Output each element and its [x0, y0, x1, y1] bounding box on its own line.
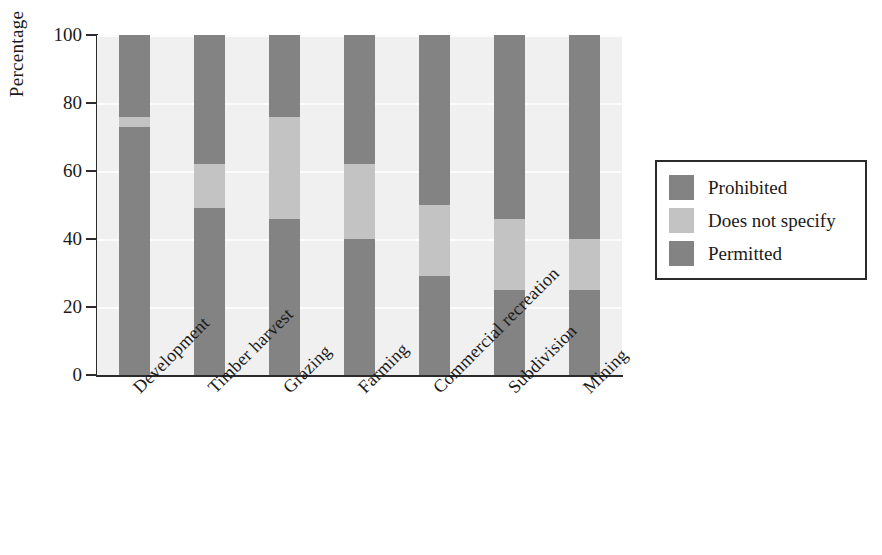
- legend-item[interactable]: Prohibited: [669, 172, 787, 202]
- bar-segment-prohibited[interactable]: [494, 35, 525, 219]
- stacked-bar[interactable]: [419, 35, 450, 375]
- bar-segment-prohibited[interactable]: [269, 35, 300, 117]
- y-axis-tick-label: 80: [2, 93, 82, 112]
- bar-segment-does-not-specify[interactable]: [119, 117, 150, 127]
- y-axis-tick-label-wrap: 40: [0, 229, 82, 248]
- legend-item[interactable]: Permitted: [669, 238, 782, 268]
- y-axis-tick-label: 40: [2, 229, 82, 248]
- bar-segment-does-not-specify[interactable]: [419, 205, 450, 276]
- bar-segment-does-not-specify[interactable]: [194, 164, 225, 208]
- y-axis-tick: [86, 306, 97, 308]
- y-axis-tick-label: 20: [2, 297, 82, 316]
- stacked-bar[interactable]: [344, 35, 375, 375]
- chart-legend: ProhibitedDoes not specifyPermitted: [655, 160, 867, 280]
- bar-segment-permitted[interactable]: [269, 219, 300, 375]
- bar-segment-permitted[interactable]: [344, 239, 375, 375]
- y-axis-tick: [86, 238, 97, 240]
- y-axis-tick-label-wrap: 80: [0, 93, 82, 112]
- legend-swatch-icon: [669, 241, 694, 266]
- legend-label: Prohibited: [708, 178, 787, 197]
- y-axis-tick-label-wrap: 60: [0, 161, 82, 180]
- bar-segment-does-not-specify[interactable]: [569, 239, 600, 290]
- y-axis-tick: [86, 34, 97, 36]
- chart-figure: Percentage 020406080100 DevelopmentTimbe…: [0, 0, 882, 555]
- bar-segment-permitted[interactable]: [419, 276, 450, 375]
- bar-segment-does-not-specify[interactable]: [494, 219, 525, 290]
- bar-segment-permitted[interactable]: [194, 208, 225, 375]
- y-axis-tick: [86, 170, 97, 172]
- y-axis-tick-label: 60: [2, 161, 82, 180]
- y-axis-tick-label-wrap: 0: [0, 365, 82, 384]
- legend-swatch-icon: [669, 175, 694, 200]
- y-axis-tick-label: 100: [2, 25, 82, 44]
- stacked-bar[interactable]: [119, 35, 150, 375]
- legend-label: Permitted: [708, 244, 782, 263]
- bar-segment-prohibited[interactable]: [569, 35, 600, 239]
- y-axis-tick: [86, 374, 97, 376]
- bar-segment-prohibited[interactable]: [119, 35, 150, 117]
- legend-swatch-icon: [669, 208, 694, 233]
- y-axis-tick: [86, 102, 97, 104]
- bar-segment-does-not-specify[interactable]: [269, 117, 300, 219]
- bar-segment-prohibited[interactable]: [419, 35, 450, 205]
- legend-item[interactable]: Does not specify: [669, 205, 836, 235]
- y-axis-title: Percentage: [6, 0, 30, 144]
- bar-segment-permitted[interactable]: [119, 127, 150, 375]
- y-axis-tick-label-wrap: 20: [0, 297, 82, 316]
- bar-segment-prohibited[interactable]: [344, 35, 375, 164]
- stacked-bar[interactable]: [569, 35, 600, 375]
- plot-area: [97, 35, 622, 375]
- bar-segment-does-not-specify[interactable]: [344, 164, 375, 239]
- bar-segment-prohibited[interactable]: [194, 35, 225, 164]
- legend-label: Does not specify: [708, 211, 836, 230]
- y-axis-tick-label: 0: [2, 365, 82, 384]
- y-axis-tick-label-wrap: 100: [0, 25, 82, 44]
